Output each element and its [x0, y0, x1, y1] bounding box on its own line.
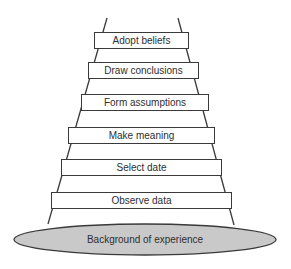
- rung-observe-data: Observe data: [51, 192, 232, 209]
- rung-label: Observe data: [111, 196, 171, 206]
- base-label-text: Background of experience: [87, 234, 203, 245]
- rung-adopt-beliefs: Adopt beliefs: [94, 32, 189, 49]
- background-of-experience-label: Background of experience: [14, 224, 276, 255]
- rung-label: Form assumptions: [104, 98, 186, 108]
- rung-form-assumptions: Form assumptions: [81, 94, 209, 111]
- rung-label: Adopt beliefs: [113, 36, 171, 46]
- rung-label: Draw conclusions: [104, 66, 182, 76]
- rung-make-meaning: Make meaning: [68, 127, 215, 144]
- rung-select-date: Select date: [61, 159, 222, 176]
- rung-label: Select date: [116, 163, 166, 173]
- rung-label: Make meaning: [109, 131, 175, 141]
- rung-draw-conclusions: Draw conclusions: [88, 62, 199, 79]
